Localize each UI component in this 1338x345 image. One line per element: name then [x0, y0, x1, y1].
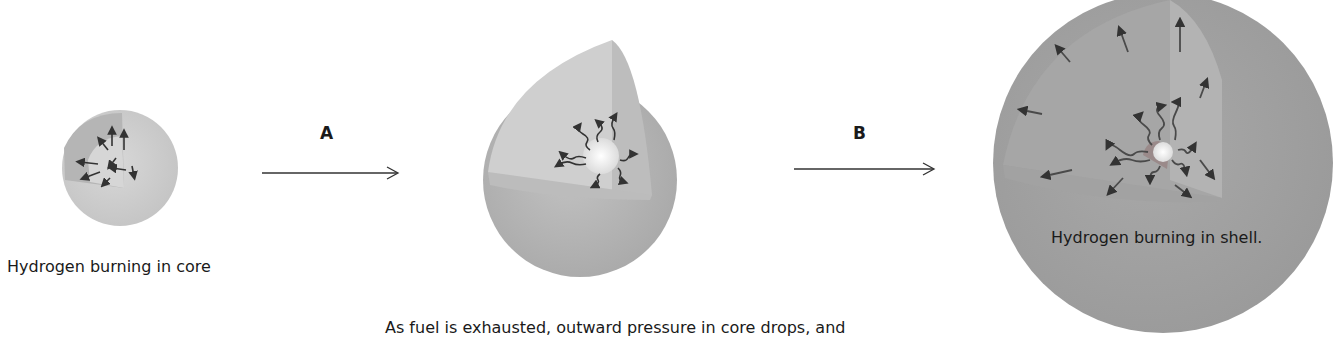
caption: As fuel is exhausted, outward pressure i…: [385, 318, 845, 337]
transition-label-b: B: [853, 123, 866, 143]
star-red-giant: [993, 0, 1333, 333]
diagram-graphics: [0, 0, 1338, 345]
stellar-evolution-diagram: Hydrogen burning in core A B Hydrogen bu…: [0, 0, 1338, 345]
transition-arrow-b: [794, 163, 934, 175]
stage-label-core-burning: Hydrogen burning in core: [7, 257, 211, 276]
star-subgiant: [483, 40, 677, 277]
transition-arrow-a: [262, 167, 398, 179]
transition-label-a: A: [320, 123, 333, 143]
stage-label-shell-burning: Hydrogen burning in shell.: [1051, 228, 1262, 247]
star-main-sequence: [62, 110, 178, 226]
